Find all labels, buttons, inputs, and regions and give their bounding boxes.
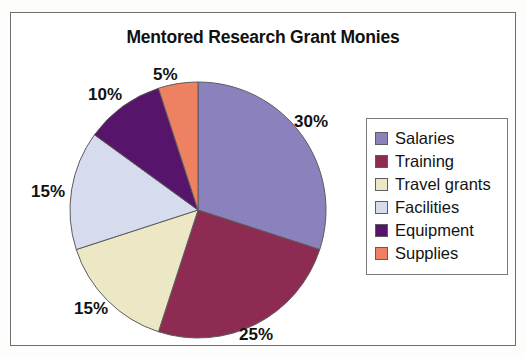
legend-item-travel-grants: Travel grants bbox=[375, 173, 507, 196]
legend-item-equipment: Equipment bbox=[375, 219, 507, 242]
pie-slice-group bbox=[70, 82, 326, 338]
legend-item-salaries: Salaries bbox=[375, 127, 507, 150]
chart-legend: Salaries Training Travel grants Faciliti… bbox=[366, 118, 508, 275]
legend-item-training: Training bbox=[375, 150, 507, 173]
legend-label-equipment: Equipment bbox=[395, 222, 474, 239]
legend-swatch-supplies bbox=[375, 247, 388, 260]
legend-label-facilities: Facilities bbox=[395, 199, 459, 216]
legend-swatch-facilities bbox=[375, 201, 388, 214]
legend-swatch-travel-grants bbox=[375, 178, 388, 191]
legend-label-salaries: Salaries bbox=[395, 130, 455, 147]
pie-label-travel-grants: 15% bbox=[74, 299, 108, 319]
legend-item-supplies: Supplies bbox=[375, 242, 507, 265]
legend-label-travel-grants: Travel grants bbox=[395, 176, 491, 193]
legend-label-training: Training bbox=[395, 153, 454, 170]
chart-title: Mentored Research Grant Monies bbox=[11, 27, 515, 48]
pie-label-facilities: 15% bbox=[31, 182, 65, 202]
legend-item-facilities: Facilities bbox=[375, 196, 507, 219]
pie-label-salaries: 30% bbox=[294, 112, 328, 132]
legend-swatch-training bbox=[375, 155, 388, 168]
legend-label-supplies: Supplies bbox=[395, 245, 458, 262]
chart-frame: Mentored Research Grant Monies 30% 25% 1… bbox=[10, 12, 516, 346]
pie-label-training: 25% bbox=[239, 325, 273, 345]
pie-label-supplies: 5% bbox=[153, 65, 178, 85]
legend-swatch-salaries bbox=[375, 132, 388, 145]
legend-swatch-equipment bbox=[375, 224, 388, 237]
pie-label-equipment: 10% bbox=[88, 85, 122, 105]
